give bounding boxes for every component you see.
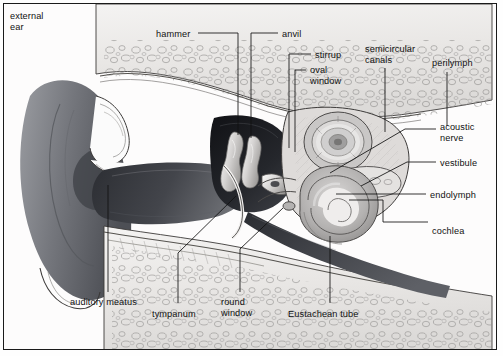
label-perilymph: perilymph: [432, 58, 473, 69]
label-external-ear: external ear: [10, 11, 44, 34]
label-endolymph: endolymph: [430, 190, 476, 201]
label-eustachean-tube: Eustachean tube: [288, 309, 358, 320]
label-round-window: round window: [221, 297, 252, 320]
label-anvil: anvil: [282, 29, 301, 40]
label-semicircular-canals: semicircular canals: [365, 44, 415, 67]
label-stirrup: stirrup: [315, 50, 341, 61]
label-cochlea: cochlea: [432, 226, 464, 237]
structure-cochlea: [300, 166, 378, 244]
label-vestibule: vestibule: [440, 158, 477, 169]
structure-round-window: [283, 202, 295, 210]
label-oval-window: oval window: [310, 65, 341, 88]
label-hammer: hammer: [156, 29, 190, 40]
ear-anatomy-figure: external ear hammer anvil stirrup oval w…: [0, 0, 503, 356]
label-acoustic-nerve: acoustic nerve: [440, 122, 475, 145]
label-auditory-meatus: auditory meatus: [70, 297, 137, 308]
label-tympanum: tympanum: [152, 309, 196, 320]
